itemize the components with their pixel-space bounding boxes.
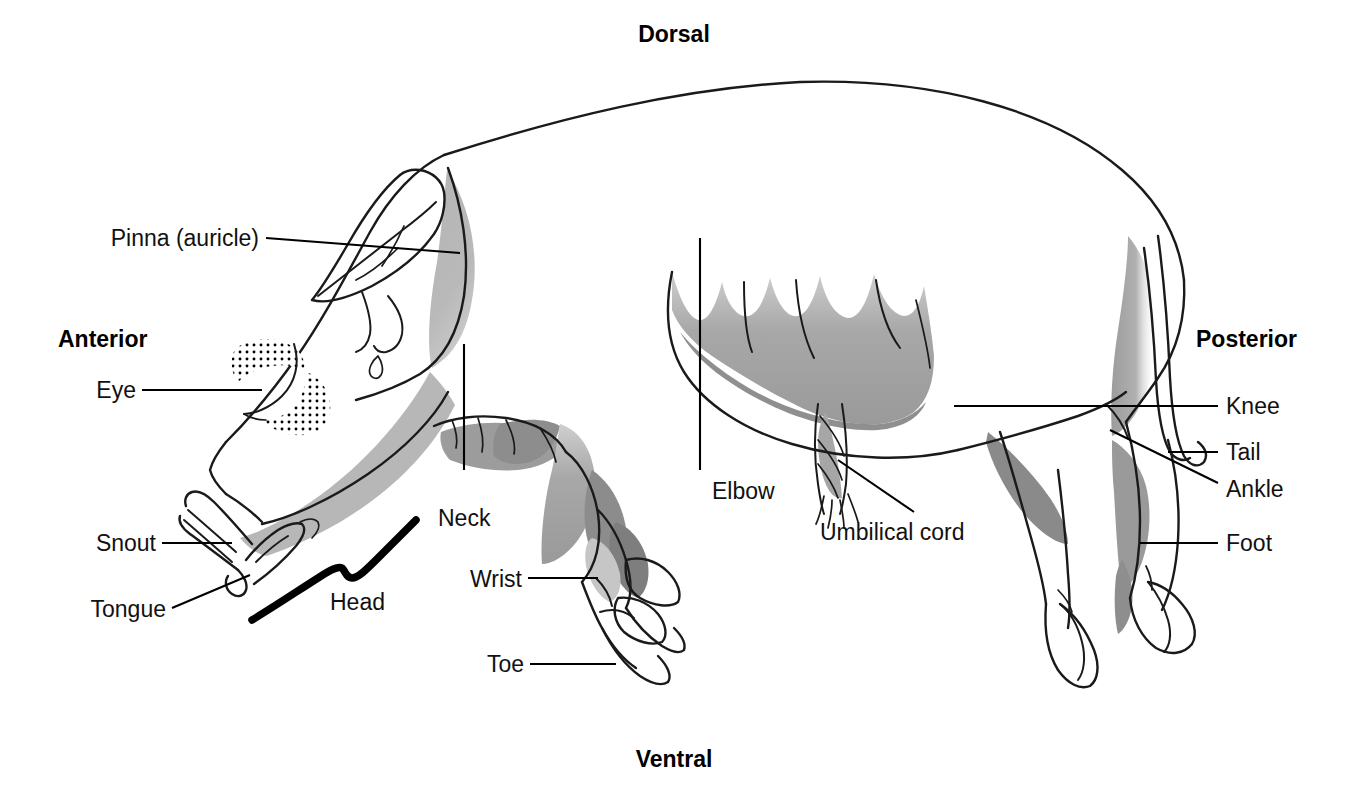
ear-flick [382, 226, 404, 266]
label-wrist: Wrist [470, 566, 523, 592]
label-toe: Toe [487, 651, 524, 677]
forelimb-toe-tip [626, 608, 685, 652]
pinna-outer [312, 170, 445, 301]
label-ankle: Ankle [1226, 476, 1284, 502]
leader-pinna [266, 238, 460, 253]
label-elbow: Elbow [712, 478, 775, 504]
label-tongue: Tongue [91, 596, 166, 622]
label-snout: Snout [96, 530, 157, 556]
label-dorsal: Dorsal [638, 21, 710, 47]
label-posterior: Posterior [1196, 326, 1297, 352]
leader-tongue [172, 575, 250, 608]
label-anterior: Anterior [58, 326, 148, 352]
label-umbilical-cord: Umbilical cord [820, 519, 964, 545]
far-hindhoof [1130, 582, 1195, 653]
label-tail: Tail [1226, 439, 1261, 465]
hind-flank [958, 392, 1126, 450]
umbilical-strand-4 [848, 494, 858, 522]
foreleg-outer-toe [602, 628, 670, 684]
label-knee: Knee [1226, 393, 1280, 419]
ear-lobe-curl [374, 296, 402, 352]
label-ventral: Ventral [636, 746, 713, 772]
dorsal-back-line [444, 82, 1184, 280]
figure-canvas: Dorsal Ventral Anterior Posterior Pinna … [0, 0, 1349, 789]
face-profile [210, 442, 226, 494]
thigh-shading [1112, 440, 1149, 592]
label-eye: Eye [96, 377, 136, 403]
ear-tip-drop [369, 356, 382, 378]
jaw-line [226, 494, 262, 522]
forehead-profile [226, 155, 444, 442]
leader-umbilical [838, 460, 914, 512]
far-hindlimb-rear [1162, 440, 1179, 610]
fetal-pig-diagram: Dorsal Ventral Anterior Posterior Pinna … [0, 0, 1349, 789]
label-pinna: Pinna (auricle) [111, 225, 259, 251]
ear-base-curl [356, 292, 371, 352]
far-hindhoof-cleft [1148, 582, 1170, 652]
label-head: Head [330, 589, 385, 615]
far-hind-dewclaw [1146, 566, 1152, 590]
text-labels: Dorsal Ventral Anterior Posterior Pinna … [58, 21, 1297, 772]
jowl-shading [240, 372, 455, 556]
hindlimb-group [1000, 404, 1195, 687]
pinna-group [312, 170, 445, 379]
body-shading [240, 170, 1156, 634]
label-foot: Foot [1226, 530, 1273, 556]
label-neck: Neck [438, 505, 491, 531]
